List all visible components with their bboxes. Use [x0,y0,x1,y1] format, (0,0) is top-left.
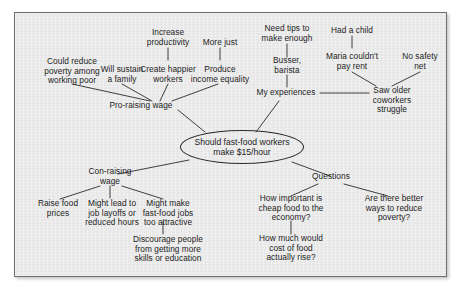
node-better-ways-reduce-poverty: Are there better ways to reduce poverty? [357,194,431,223]
node-pro-raising-wage: Pro-raising wage [103,101,179,111]
node-increase-productivity: Increase productivity [139,28,197,47]
node-cost-of-food-rise: How much would cost of food actually ris… [251,234,331,263]
node-no-safety-net: No safety net [398,52,442,71]
node-busser-barista: Busser, barista [265,56,309,75]
node-fast-food-jobs-too-attractive: Might make fast-food jobs too attractive [137,199,199,228]
node-my-experiences: My experiences [251,88,321,98]
node-need-tips-to-make-enough: Need tips to make enough [256,24,318,43]
diagram-canvas: Could reduce poverty among working poor … [0,0,463,291]
node-job-layoffs-reduced-hours: Might lead to job layoffs or reduced hou… [81,199,143,228]
node-more-just: More just [195,38,245,48]
node-maria-couldnt-pay-rent: Maria couldn't pay rent [323,52,381,71]
node-discourage-people: Discourage people from getting more skil… [127,235,209,264]
central-topic: Should fast-food workers make $15/hour [180,130,304,164]
node-con-raising-wage: Con-raising wage [81,167,139,186]
node-had-a-child: Had a child [327,26,377,36]
node-questions: Questions [305,172,357,182]
node-produce-income-equality: Produce income equality [185,65,255,84]
node-saw-older-coworkers-struggle: Saw older coworkers struggle [366,86,418,115]
node-raise-food-prices: Raise food prices [31,199,85,218]
node-cheap-food-economy: How important is cheap food to the econo… [252,194,330,223]
